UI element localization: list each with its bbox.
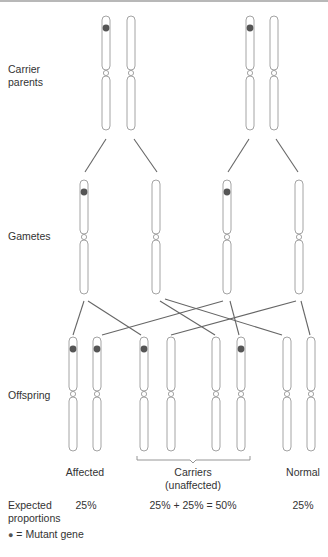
connector-line	[73, 301, 84, 335]
legend: ● = Mutant gene	[8, 528, 84, 542]
outcome-carriers: Carriers (unaffected)	[143, 466, 243, 492]
gamete-chromosome	[152, 180, 160, 294]
connector-line	[88, 301, 141, 335]
mutant-gene-dot-icon	[94, 346, 101, 353]
mutant-gene-dot-icon	[247, 25, 254, 32]
mutant-gene-dot-icon: ●	[8, 530, 13, 540]
chromosomes	[69, 16, 315, 451]
connector-line	[102, 301, 223, 335]
mutant-gene-dot-icon	[141, 346, 148, 353]
parent-chromosome	[246, 16, 254, 130]
connector-line	[134, 139, 157, 172]
outcome-carriers-line: (unaffected)	[143, 479, 243, 492]
mutant-gene-dot-icon	[70, 346, 77, 353]
gamete-chromosome	[80, 180, 88, 294]
parent-chromosome	[127, 16, 135, 130]
offspring-chromosome	[237, 337, 245, 451]
row-label-line: Carrier	[8, 63, 43, 76]
connector-line	[301, 301, 310, 335]
offspring-chromosome	[167, 337, 175, 451]
mutant-gene-dot-icon	[238, 346, 245, 353]
row-label-carrier-parents: Carrier parents	[8, 63, 43, 89]
connector-line	[276, 139, 298, 172]
offspring-chromosome	[140, 337, 148, 451]
proportion-normal: 25%	[283, 499, 323, 512]
offspring-chromosome	[69, 337, 77, 451]
outcome-normal: Normal	[280, 466, 326, 479]
proportion-affected: 25%	[66, 499, 106, 512]
parent-chromosome	[102, 16, 110, 130]
mutant-gene-dot-icon	[103, 25, 110, 32]
mutant-gene-dot-icon	[81, 189, 88, 196]
row-label-offspring: Offspring	[8, 389, 50, 402]
carriers-bracket	[137, 456, 250, 463]
connector-line	[228, 139, 249, 172]
outcome-affected: Affected	[60, 466, 110, 479]
connector-line	[85, 139, 106, 172]
proportions-label-line: proportions	[8, 512, 61, 525]
connector-line	[165, 299, 282, 335]
row-label-line: parents	[8, 76, 43, 89]
row-label-gametes: Gametes	[8, 230, 51, 243]
proportions-label-line: Expected	[8, 499, 61, 512]
gamete-chromosome	[295, 180, 303, 294]
proportion-carriers: 25% + 25% = 50%	[143, 499, 243, 512]
proportions-label: Expected proportions	[8, 499, 61, 525]
gamete-chromosome	[223, 180, 231, 294]
offspring-chromosome	[212, 337, 220, 451]
offspring-chromosome	[93, 337, 101, 451]
parent-chromosome	[270, 16, 278, 130]
offspring-chromosome	[307, 337, 315, 451]
mutant-gene-dot-icon	[224, 189, 231, 196]
legend-text: = Mutant gene	[16, 528, 83, 540]
outcome-carriers-line: Carriers	[143, 466, 243, 479]
offspring-chromosome	[283, 337, 291, 451]
connector-lines	[73, 139, 310, 335]
